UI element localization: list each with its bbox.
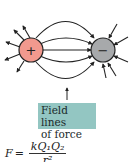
minus-sign: −: [98, 43, 109, 58]
formula-equals: =: [15, 147, 24, 160]
formula-numerator: kQ₁Q₂: [29, 140, 67, 154]
label-line-2: of force: [41, 128, 93, 140]
formula-lhs: F: [5, 147, 13, 160]
formula-fraction: kQ₁Q₂ r²: [29, 140, 67, 162]
positive-charge: +: [19, 38, 43, 62]
field-lines-label: Field lines of force: [38, 103, 96, 129]
negative-charge: −: [91, 38, 115, 62]
electric-field-diagram: + −: [0, 0, 133, 100]
coulomb-formula: F = kQ₁Q₂ r²: [5, 140, 66, 162]
label-line-1: Field lines: [41, 104, 93, 128]
formula-denominator: r²: [43, 154, 53, 162]
plus-sign: +: [26, 43, 37, 58]
